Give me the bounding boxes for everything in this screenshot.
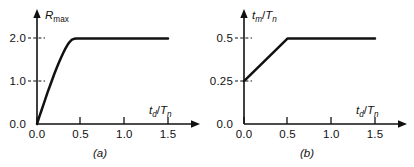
- x-axis-label-a: td/Tn: [149, 104, 172, 119]
- y-axis-label-a: Rmax: [45, 9, 69, 24]
- x-axis-b: [244, 120, 407, 127]
- y-axis-b: [240, 9, 247, 124]
- y-tick-label-a-2: 2.0: [9, 32, 26, 44]
- x-tick-label-a-2: 1.0: [116, 128, 133, 140]
- y-tick-label-a-0: 0.0: [9, 118, 26, 130]
- chart-panel-a: 0.0 1.0 2.0 0.0 0.5 1.0 1.5 Rmax td/Tn (…: [0, 0, 207, 167]
- chart-panel-b: 0.0 0.25 0.5 0.0 0.5 1.0 1.5 tm/Tn td/Tn…: [207, 0, 414, 167]
- panel-caption-b: (b): [300, 147, 314, 159]
- y-tick-label-b-2: 0.5: [216, 32, 233, 44]
- panel-caption-a: (a): [93, 147, 107, 159]
- x-tick-label-a-3: 1.5: [160, 128, 177, 140]
- y-tick-label-b-1: 0.25: [210, 75, 233, 87]
- x-ticks-a: [37, 117, 168, 124]
- y-tick-label-b-0: 0.0: [216, 118, 233, 130]
- x-tick-label-a-1: 0.5: [72, 128, 89, 140]
- x-axis-a: [37, 120, 200, 127]
- y-axis-a: [33, 9, 40, 124]
- x-tick-label-a-0: 0.0: [29, 128, 46, 140]
- data-curve-b: [244, 38, 375, 81]
- x-axis-label-b: td/Tn: [356, 104, 379, 119]
- figure-root: 0.0 1.0 2.0 0.0 0.5 1.0 1.5 Rmax td/Tn (…: [0, 0, 414, 167]
- y-tick-label-a-1: 1.0: [9, 75, 26, 87]
- x-tick-label-b-0: 0.0: [236, 128, 253, 140]
- y-axis-label-b: tm/Tn: [252, 9, 277, 24]
- x-ticks-b: [244, 117, 375, 124]
- x-tick-label-b-1: 0.5: [279, 128, 296, 140]
- x-tick-label-b-2: 1.0: [323, 128, 340, 140]
- x-tick-label-b-3: 1.5: [367, 128, 384, 140]
